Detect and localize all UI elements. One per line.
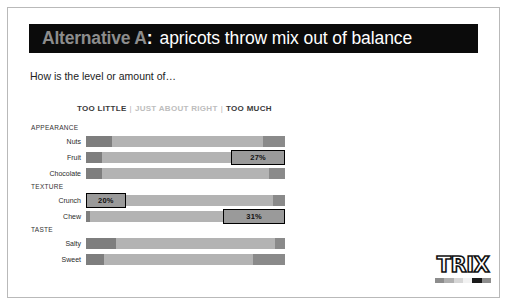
logo-swatch (463, 278, 472, 283)
chart-segment-too-little (86, 152, 102, 163)
chart-section-label: TASTE (30, 224, 300, 235)
chart-row: Chocolate (30, 165, 300, 181)
logo-swatch (472, 278, 481, 283)
chart-callout-right: 31% (223, 209, 285, 224)
chart-bar: 20% (86, 195, 285, 206)
trix-logo-swatches (435, 278, 491, 283)
chart-bar (86, 168, 285, 179)
title-rest: apricots throw mix out of balance (160, 28, 413, 49)
logo-swatch (454, 278, 463, 283)
chart-callout-right: 27% (231, 150, 285, 165)
chart-row-label: Sweet (30, 256, 86, 263)
chart-segment-too-little (86, 168, 102, 179)
logo-swatch (444, 278, 453, 283)
legend-item-too-little: TOO LITTLE (77, 104, 127, 113)
chart-segment-too-little (86, 238, 116, 249)
slide-title-bar: Alternative A: apricots throw mix out of… (29, 24, 478, 53)
chart-segment-too-much (269, 168, 285, 179)
chart-row: Sweet (30, 251, 300, 267)
chart-row-label: Chocolate (30, 170, 86, 177)
chart-segment-too-much (273, 195, 285, 206)
title-colon: : (147, 28, 153, 49)
chart-row-label: Fruit (30, 154, 86, 161)
legend-item-too-much: TOO MUCH (226, 104, 272, 113)
chart-legend: TOO LITTLE|JUST ABOUT RIGHT|TOO MUCH (77, 104, 317, 113)
chart-segment-too-much (275, 238, 285, 249)
title-prefix: Alternative A (42, 28, 147, 49)
chart-segment-too-much (263, 136, 285, 147)
chart-segment-too-little (86, 254, 104, 265)
chart-row: Chew31% (30, 208, 300, 224)
logo-swatch (435, 278, 444, 283)
legend-separator-1: | (130, 104, 132, 113)
chart-bar (86, 136, 285, 147)
chart-bar (86, 254, 285, 265)
chart-bar (86, 238, 285, 249)
chart-bar: 27% (86, 152, 285, 163)
chart-row: Crunch20% (30, 192, 300, 208)
chart-row-label: Crunch (30, 197, 86, 204)
chart-callout-left: 20% (86, 193, 126, 208)
question-text: How is the level or amount of… (30, 70, 176, 82)
trix-logo: TRIX (435, 255, 491, 283)
trix-logo-wordmark: TRIX (435, 255, 491, 276)
chart-row: Fruit27% (30, 149, 300, 165)
chart-bar: 31% (86, 211, 285, 222)
chart-row-label: Chew (30, 213, 86, 220)
chart-section-label: TEXTURE (30, 181, 300, 192)
chart-row: Nuts (30, 133, 300, 149)
legend-separator-2: | (221, 104, 223, 113)
chart-row-label: Nuts (30, 138, 86, 145)
slide-canvas: Alternative A: apricots throw mix out of… (7, 7, 500, 298)
chart-segment-too-little (86, 136, 112, 147)
logo-swatch (482, 278, 491, 283)
legend-item-just-about-right: JUST ABOUT RIGHT (135, 104, 218, 113)
chart-segment-too-little (86, 211, 90, 222)
chart-row-label: Salty (30, 240, 86, 247)
chart-section-label: APPEARANCE (30, 122, 300, 133)
chart-segment-too-much (253, 254, 285, 265)
chart-row: Salty (30, 235, 300, 251)
stacked-bar-chart: APPEARANCENutsFruit27%ChocolateTEXTURECr… (30, 122, 300, 267)
